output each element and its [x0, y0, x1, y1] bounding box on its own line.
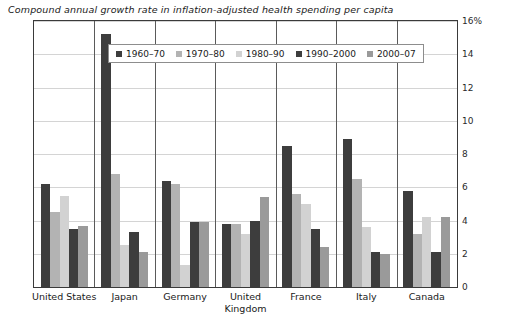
bar: [139, 252, 148, 287]
bar: [129, 232, 138, 287]
y-axis-tick-label: 0: [462, 282, 468, 292]
bar: [69, 229, 78, 287]
x-axis-tick-line: United: [230, 291, 261, 302]
bar: [371, 252, 380, 287]
y-axis-tick-label: 6: [462, 182, 468, 192]
x-axis-tick-label: Germany: [163, 291, 207, 303]
bar: [260, 197, 269, 287]
legend-item[interactable]: 1960–70: [116, 49, 165, 59]
x-axis-tick-label: Italy: [356, 291, 377, 303]
legend-label: 1980–90: [246, 49, 285, 59]
bar: [180, 265, 189, 287]
legend-label: 1990–2000: [306, 49, 356, 59]
legend-item[interactable]: 2000–07: [367, 49, 416, 59]
bar: [199, 222, 208, 287]
y-axis-tick-label: 2: [462, 249, 468, 259]
bar: [282, 146, 291, 287]
bar: [403, 191, 412, 287]
y-axis-tick-label: 4: [462, 216, 468, 226]
bar: [241, 234, 250, 287]
x-axis-tick-label: Japan: [111, 291, 138, 303]
y-axis-tick-label: 16%: [462, 16, 482, 26]
bar: [111, 174, 120, 287]
x-axis-tick-line: Japan: [111, 291, 138, 302]
bar: [362, 227, 371, 287]
x-axis-tick-line: France: [290, 291, 322, 302]
bar: [250, 221, 259, 288]
bar: [222, 224, 231, 287]
bar: [413, 234, 422, 287]
legend-item[interactable]: 1980–90: [236, 49, 285, 59]
x-axis-tick-line: Germany: [163, 291, 207, 302]
x-axis-tick-label: France: [290, 291, 322, 303]
bar: [422, 217, 431, 287]
x-axis-tick-line: Kingdom: [224, 303, 266, 315]
bar: [41, 184, 50, 287]
x-axis: United StatesJapanGermanyUnitedKingdomFr…: [34, 291, 458, 325]
bar: [101, 34, 110, 287]
group-separator: [94, 21, 95, 287]
bar: [231, 224, 240, 287]
legend-item[interactable]: 1990–2000: [296, 49, 356, 59]
bar: [292, 194, 301, 287]
legend-item[interactable]: 1970–80: [176, 49, 225, 59]
legend-label: 1960–70: [126, 49, 165, 59]
chart-legend: 1960–701970–801980–901990–20002000–07: [108, 44, 424, 63]
bar: [311, 229, 320, 287]
y-axis-tick-label: 12: [462, 83, 473, 93]
bar: [171, 184, 180, 287]
bar: [120, 245, 129, 287]
legend-label: 2000–07: [377, 49, 416, 59]
legend-swatch-icon: [367, 51, 373, 57]
bar: [431, 252, 440, 287]
y-axis-tick-label: 10: [462, 116, 473, 126]
bar: [352, 179, 361, 287]
x-axis-tick-line: Italy: [356, 291, 377, 302]
y-axis-tick-label: 8: [462, 149, 468, 159]
bar: [50, 212, 59, 287]
legend-swatch-icon: [176, 51, 182, 57]
x-axis-tick-label: UnitedKingdom: [224, 291, 266, 314]
bar: [441, 217, 450, 287]
chart-root: Compound annual growth rate in inflation…: [0, 0, 508, 326]
y-axis-tick-label: 14: [462, 49, 473, 59]
x-axis-tick-label: United States: [32, 291, 96, 303]
bar: [320, 247, 329, 287]
x-axis-tick-line: Canada: [409, 291, 445, 302]
bar: [60, 196, 69, 287]
bar: [190, 222, 199, 287]
bar: [380, 254, 389, 287]
legend-swatch-icon: [296, 51, 302, 57]
bar: [162, 181, 171, 287]
legend-swatch-icon: [116, 51, 122, 57]
legend-swatch-icon: [236, 51, 242, 57]
bar: [343, 139, 352, 287]
legend-label: 1970–80: [186, 49, 225, 59]
x-axis-tick-label: Canada: [409, 291, 445, 303]
bar: [301, 204, 310, 287]
x-axis-tick-line: United States: [32, 291, 96, 302]
y-axis: 16%14121086420: [462, 0, 506, 326]
bar: [78, 226, 87, 288]
chart-title: Compound annual growth rate in inflation…: [8, 4, 448, 15]
